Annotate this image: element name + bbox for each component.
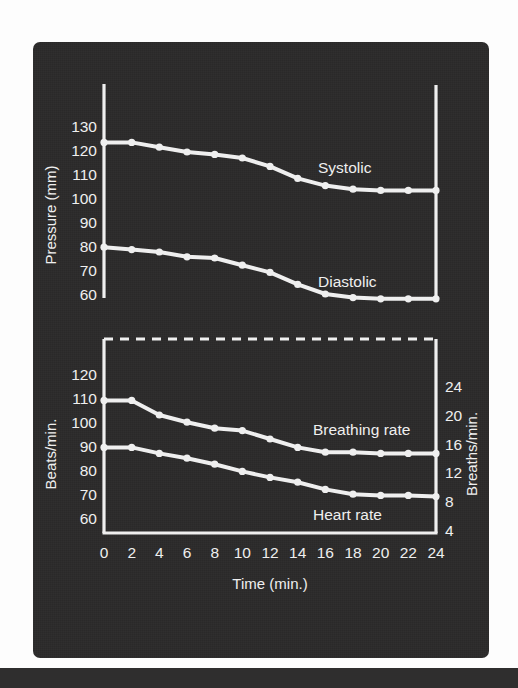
tick-breaths-4: 4 [445,522,454,539]
tick-time-14: 14 [289,544,307,561]
label-breathing-rate: Breathing rate [313,421,410,438]
tick-beats-100: 100 [71,414,97,431]
axis-title-pressure: Pressure (mm) [42,165,59,264]
label-heart-rate: Heart rate [313,506,382,523]
tick-pressure-130: 130 [71,118,97,135]
tick-time-10: 10 [234,544,252,561]
tick-beats-110: 110 [72,390,97,407]
tick-pressure-60: 60 [80,286,98,303]
tick-beats-80: 80 [80,462,98,479]
tick-pressure-100: 100 [71,190,97,207]
tick-pressure-80: 80 [80,238,98,255]
tick-time-0: 0 [100,544,109,561]
physiology-chart: 130 120 110 100 90 80 70 60 Pressure (mm… [33,42,489,658]
tick-beats-120: 120 [71,366,97,383]
label-systolic: Systolic [318,159,372,176]
tick-pressure-70: 70 [80,262,98,279]
axis-title-beats: Beats/min. [42,419,59,490]
tick-pressure-120: 120 [71,142,97,159]
tick-time-24: 24 [427,544,445,561]
tick-time-8: 8 [210,544,219,561]
tick-time-6: 6 [183,544,192,561]
tick-breaths-12: 12 [445,464,462,481]
axis-title-time: Time (min.) [232,575,307,592]
tick-time-22: 22 [400,544,417,561]
tick-breaths-16: 16 [445,436,462,453]
tick-time-4: 4 [155,544,164,561]
tick-time-12: 12 [261,544,278,561]
tick-time-16: 16 [317,544,334,561]
tick-pressure-110: 110 [72,166,97,183]
figure-stage: 130 120 110 100 90 80 70 60 Pressure (mm… [0,0,518,688]
tick-breaths-20: 20 [445,407,463,424]
bottom-dark-strip [0,668,518,688]
tick-time-20: 20 [372,544,390,561]
axis-title-breaths: Breaths/min. [463,412,480,496]
tick-breaths-24: 24 [445,378,463,395]
tick-pressure-90: 90 [80,214,98,231]
tick-beats-60: 60 [80,510,98,527]
label-diastolic: Diastolic [318,273,377,290]
tick-breaths-8: 8 [445,493,454,510]
tick-time-2: 2 [127,544,136,561]
tick-beats-90: 90 [80,438,98,455]
tick-beats-70: 70 [80,486,98,503]
tick-time-18: 18 [344,544,361,561]
